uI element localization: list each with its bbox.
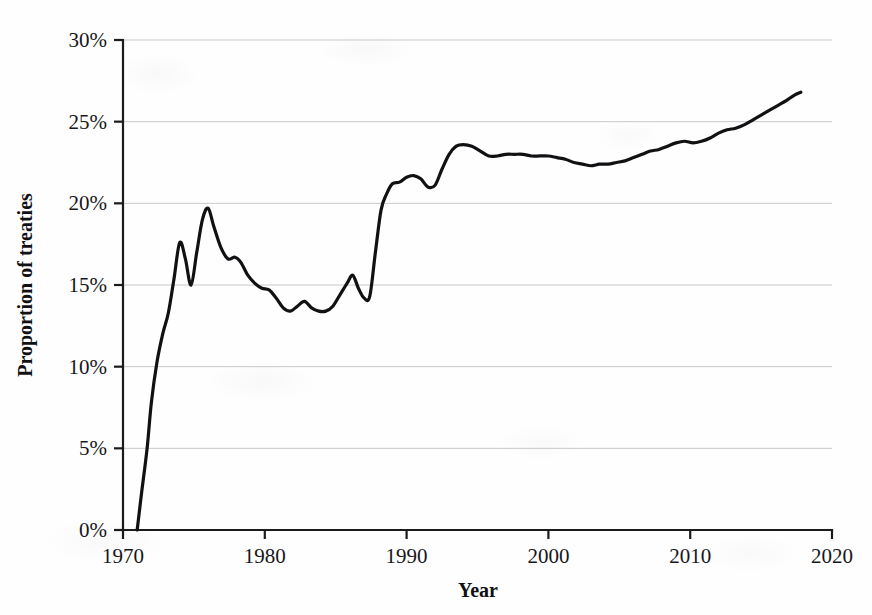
x-axis-ticks	[123, 530, 832, 539]
y-tick-label-20pct: 20%	[69, 191, 108, 215]
x-tick-label-2010: 2010	[669, 544, 711, 568]
x-tick-label-1980: 1980	[244, 544, 286, 568]
x-tick-label-1970: 1970	[102, 544, 144, 568]
y-tick-label-25pct: 25%	[69, 110, 108, 134]
y-tick-label-15pct: 15%	[69, 273, 108, 297]
y-tick-label-0pct: 0%	[79, 518, 107, 542]
x-axis-tick-labels: 197019801990200020102020	[102, 544, 853, 568]
x-tick-label-1990: 1990	[386, 544, 428, 568]
chart-figure: 0%5%10%15%20%25%30% 19701980199020002010…	[0, 0, 872, 615]
y-tick-label-30pct: 30%	[69, 28, 108, 52]
y-axis-tick-labels: 0%5%10%15%20%25%30%	[69, 28, 108, 542]
y-axis-ticks	[114, 40, 123, 530]
data-line-proportion-of-treaties	[137, 92, 801, 530]
gridlines	[123, 40, 832, 448]
x-tick-label-2000: 2000	[527, 544, 569, 568]
y-tick-label-10pct: 10%	[69, 355, 108, 379]
x-axis-title: Year	[458, 579, 498, 601]
y-axis-title: Proportion of treaties	[14, 193, 37, 377]
x-tick-label-2020: 2020	[811, 544, 853, 568]
line-chart-canvas: 0%5%10%15%20%25%30% 19701980199020002010…	[0, 0, 872, 615]
y-tick-label-5pct: 5%	[79, 436, 107, 460]
